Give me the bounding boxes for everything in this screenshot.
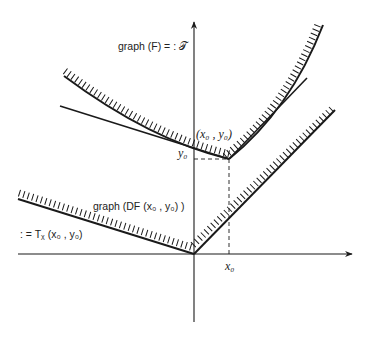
tangent-line-right	[229, 78, 307, 159]
x0-label: x₀	[225, 259, 235, 274]
tangent-cone-label: : = Tᵪ (x₀ , y₀)	[20, 228, 83, 240]
y0-label: y₀	[178, 146, 188, 161]
point-label: (x₀ , y₀)	[196, 127, 232, 142]
graph-F-label: graph (F) = : 𝒯	[118, 40, 187, 53]
graph-DF-label: graph (DF (x₀ , y₀) )	[93, 200, 185, 212]
